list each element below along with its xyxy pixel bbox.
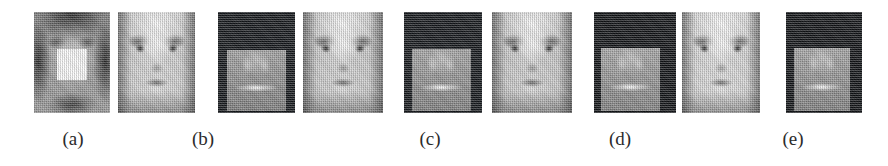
panel-caption-a: (a) (62, 129, 83, 148)
residual-block (227, 50, 286, 111)
residual-error-map-e2 (786, 12, 862, 113)
reconstructed-face-e (682, 12, 760, 113)
residual-error-map-d (404, 12, 482, 113)
reconstructed-face-b (118, 12, 195, 113)
residual-block (412, 49, 471, 111)
panel-caption-e: (e) (782, 129, 803, 148)
panel-caption-c: (c) (419, 129, 440, 148)
occlusion-patch (57, 49, 87, 79)
panel-caption-d: (d) (609, 129, 631, 148)
residual-block (601, 48, 660, 111)
reconstructed-face-d (492, 12, 572, 113)
reconstructed-face-c (303, 12, 383, 113)
figure-panel-row: (a)(b)(c)(d)(e) (0, 0, 888, 166)
residual-error-map-e1 (594, 12, 676, 113)
panel-caption-b: (b) (192, 129, 214, 148)
occluded-input-face (34, 12, 110, 113)
residual-error-map-c (218, 12, 295, 113)
residual-block (794, 48, 850, 111)
